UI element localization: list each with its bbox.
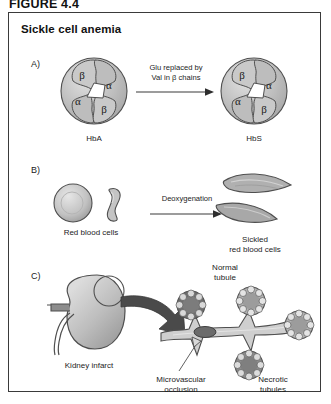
- panel-a-letter: A): [31, 59, 40, 69]
- reaction-arrow-a-icon: [135, 86, 217, 98]
- subunit-beta-1: β: [239, 69, 245, 81]
- hemoglobin-hbs-icon: β α α β: [213, 55, 295, 133]
- subunit-beta-2: β: [261, 103, 267, 115]
- panel-a-arrow-label: Glu replaced by Val in β chains: [133, 63, 219, 82]
- normal-tubule-label: Normal tubule: [185, 263, 265, 283]
- subunit-alpha-1: α: [106, 79, 112, 91]
- hbs-label: HbS: [213, 134, 295, 144]
- sickled-rbc-label: Sickled red blood cells: [205, 235, 305, 255]
- panel-c-letter: C): [31, 271, 41, 281]
- microvascular-occlusion-label: Microvascular occlusion: [133, 375, 229, 395]
- renal-tubule-tree: [161, 285, 321, 387]
- page-title: Sickle cell anemia: [21, 23, 121, 35]
- red-blood-cell-edge-icon: [101, 185, 137, 223]
- renal-tubule-icon: [236, 286, 266, 316]
- sickled-cell-icon-2: [215, 199, 281, 233]
- red-blood-cell-round-icon: [51, 181, 95, 225]
- subunit-beta-2: β: [101, 103, 107, 115]
- necrotic-tubules-label: Necrotic tubules: [235, 375, 311, 395]
- subunit-alpha-2: α: [75, 95, 81, 107]
- renal-tubule-icon: [176, 290, 206, 320]
- hba-label: HbA: [53, 134, 135, 144]
- subunit-alpha-2: α: [235, 95, 241, 107]
- reaction-arrow-b-icon: [149, 208, 225, 220]
- rbc-label: Red blood cells: [37, 228, 145, 238]
- renal-tubule-icon: [284, 310, 314, 340]
- figure-box: Sickle cell anemia A) β α α β HbA Glu re…: [8, 12, 321, 392]
- subunit-alpha-1: α: [266, 79, 272, 91]
- panel-b-letter: B): [31, 165, 40, 175]
- subunit-beta-1: β: [79, 69, 85, 81]
- panel-b-arrow-label: Deoxygenation: [149, 194, 225, 204]
- figure-caption: FIGURE 4.4: [9, 0, 79, 11]
- hemoglobin-hba-icon: β α α β: [53, 55, 135, 133]
- kidney-label: Kidney infarct: [37, 361, 141, 371]
